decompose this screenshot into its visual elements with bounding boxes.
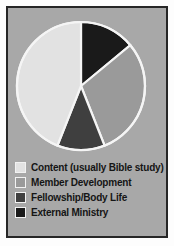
legend-swatch-fellowship-body-life xyxy=(15,192,26,203)
chart-frame: Content (usually Bible study) Member Dev… xyxy=(6,6,168,238)
legend-item-member-development[interactable]: Member Development xyxy=(15,175,167,190)
legend-label-fellowship-body-life: Fellowship/Body Life xyxy=(31,192,127,203)
legend-label-member-development: Member Development xyxy=(31,177,131,188)
legend-item-fellowship-body-life[interactable]: Fellowship/Body Life xyxy=(15,190,167,205)
pie-svg xyxy=(8,8,170,160)
legend-swatch-content xyxy=(15,162,26,173)
chart-legend: Content (usually Bible study) Member Dev… xyxy=(15,160,167,234)
pie-chart-figure: Content (usually Bible study) Member Dev… xyxy=(0,0,174,246)
pie-plot-area xyxy=(8,8,170,160)
legend-swatch-external-ministry xyxy=(15,207,26,218)
legend-item-content[interactable]: Content (usually Bible study) xyxy=(15,160,167,175)
legend-label-content: Content (usually Bible study) xyxy=(31,162,164,173)
legend-item-external-ministry[interactable]: External Ministry xyxy=(15,205,167,220)
legend-swatch-member-development xyxy=(15,177,26,188)
legend-label-external-ministry: External Ministry xyxy=(31,207,108,218)
